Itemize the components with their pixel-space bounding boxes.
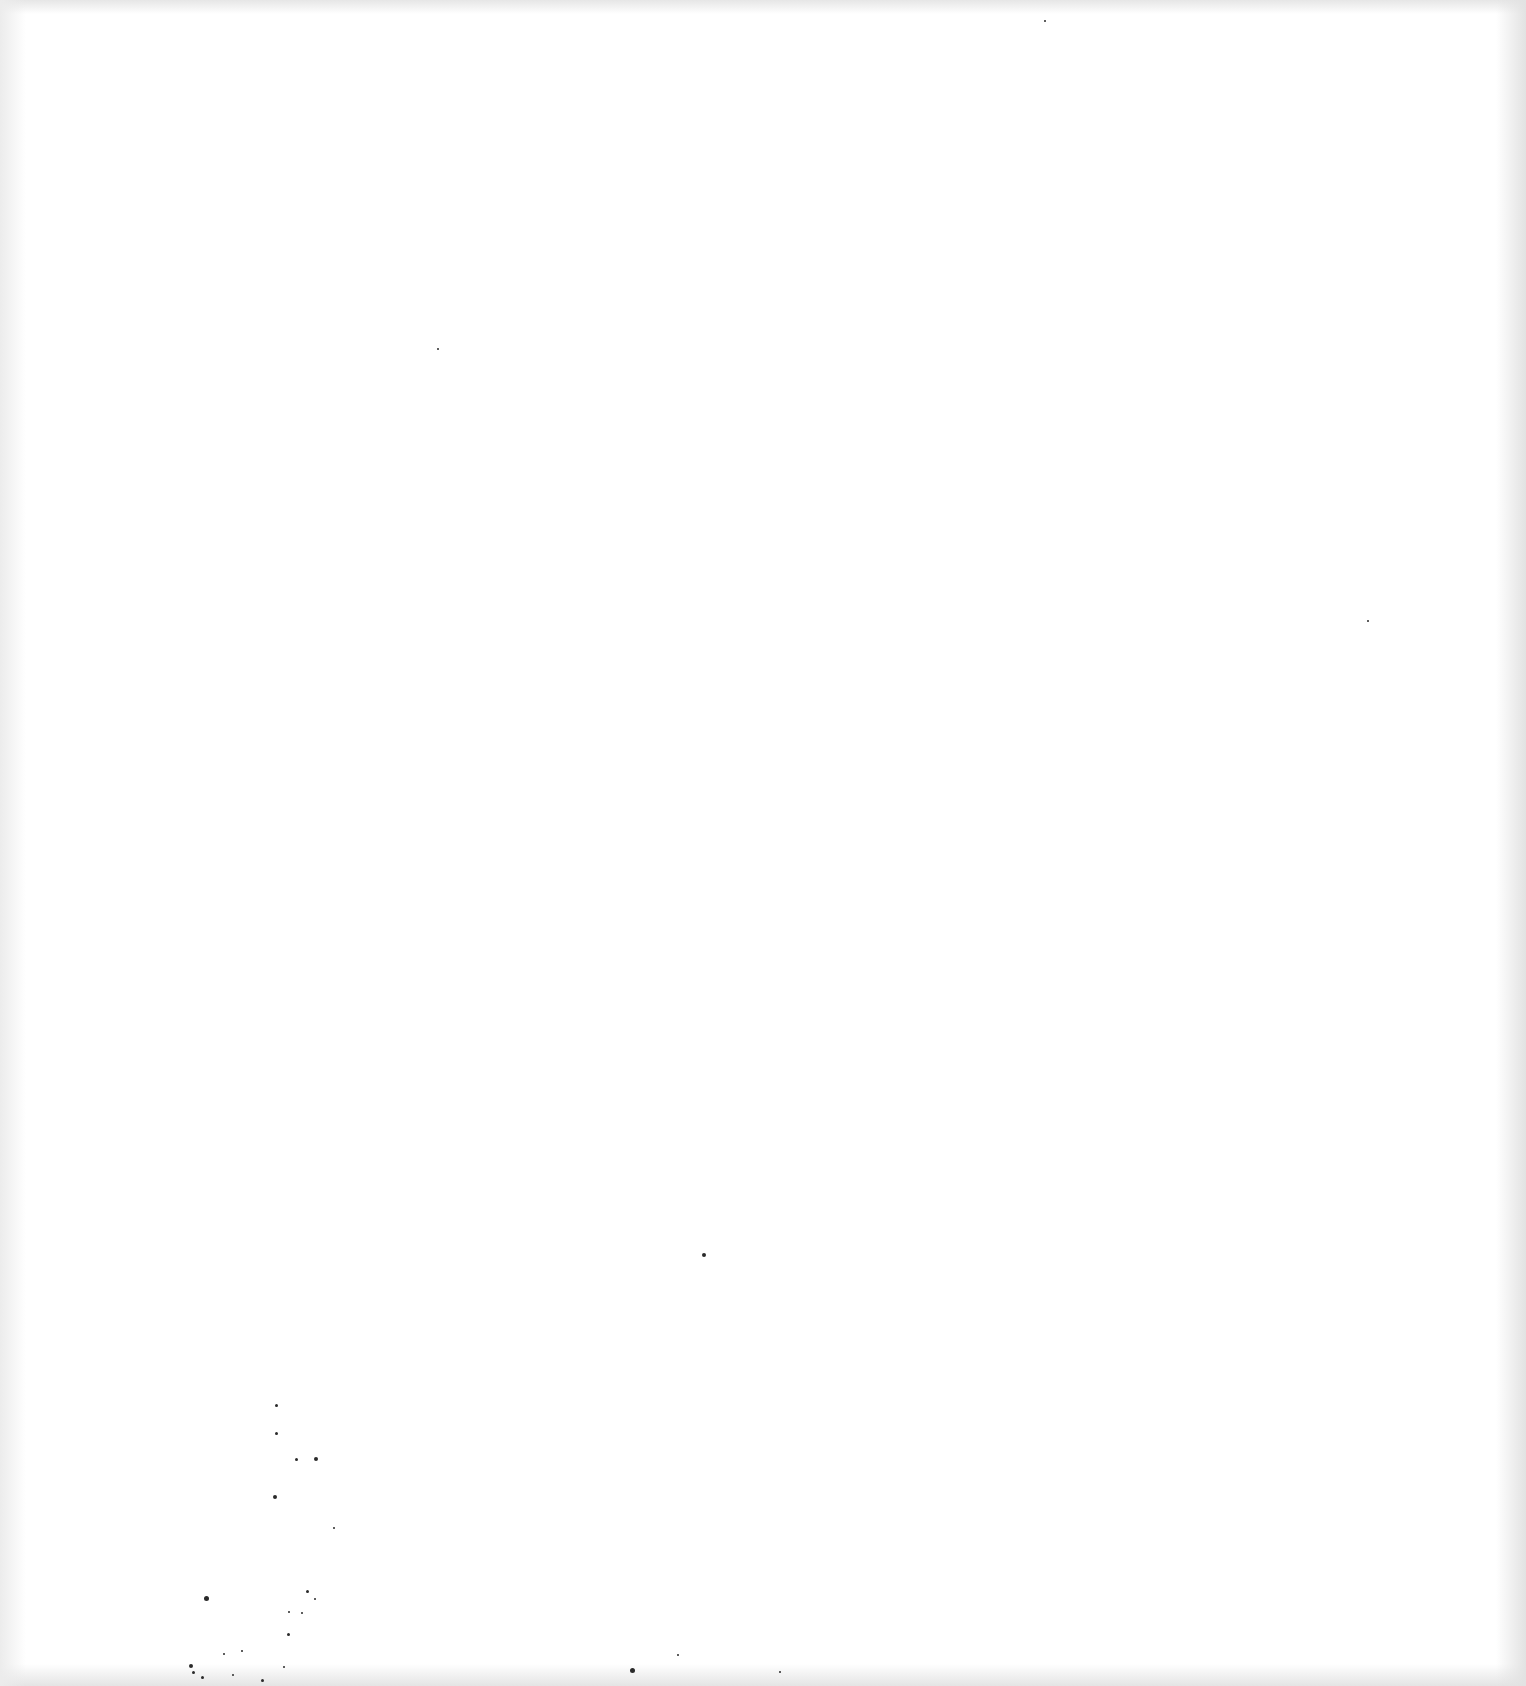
dust-speck bbox=[287, 1633, 290, 1636]
dust-speck bbox=[241, 1650, 243, 1652]
dust-speck bbox=[301, 1612, 303, 1614]
dust-speck bbox=[314, 1457, 318, 1461]
dust-speck bbox=[333, 1527, 335, 1529]
scan-edge-right bbox=[1496, 0, 1526, 1686]
dust-speck bbox=[1044, 20, 1046, 22]
dust-speck bbox=[273, 1495, 277, 1499]
dust-speck bbox=[1367, 620, 1369, 622]
dust-speck bbox=[261, 1679, 264, 1682]
blank-page bbox=[0, 0, 1526, 1686]
scan-edge-bottom bbox=[0, 1664, 1526, 1686]
dust-speck bbox=[306, 1590, 309, 1593]
dust-speck bbox=[192, 1671, 195, 1674]
dust-speck bbox=[295, 1458, 298, 1461]
scan-edge-left bbox=[0, 0, 26, 1686]
dust-speck bbox=[275, 1432, 278, 1435]
dust-speck bbox=[201, 1676, 204, 1679]
dust-speck bbox=[630, 1668, 635, 1673]
dust-speck bbox=[275, 1404, 278, 1407]
dust-speck bbox=[314, 1598, 316, 1600]
dust-speck bbox=[223, 1653, 225, 1655]
dust-speck bbox=[437, 348, 439, 350]
dust-speck bbox=[677, 1654, 679, 1656]
dust-speck bbox=[189, 1664, 193, 1668]
dust-speck bbox=[702, 1253, 706, 1257]
dust-speck bbox=[288, 1611, 290, 1613]
scan-edge-top bbox=[0, 0, 1526, 14]
dust-speck bbox=[204, 1596, 209, 1601]
